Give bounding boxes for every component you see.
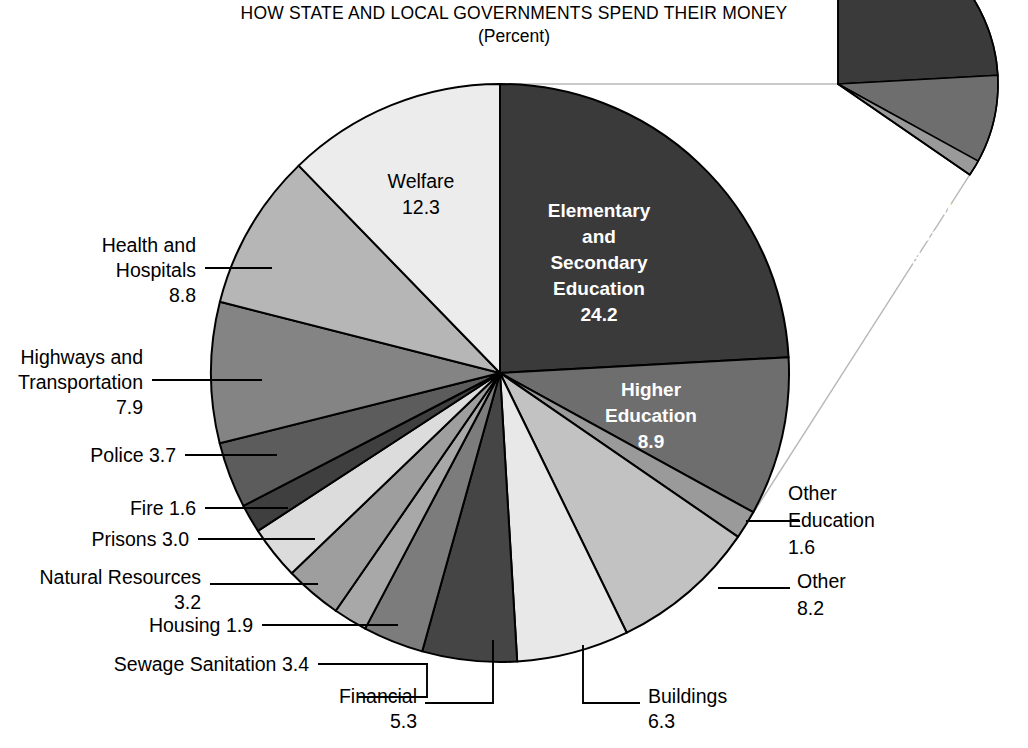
pie-chart-svg: HOW STATE AND LOCAL GOVERNMENTS SPEND TH… [0, 0, 1028, 748]
label-other-line1: Other [797, 570, 846, 592]
label-highways-line2: Transportation [18, 371, 143, 393]
label-housing: Housing 1.9 [149, 614, 253, 636]
leader-buildings [583, 645, 640, 703]
exploded-total-education[interactable] [838, 0, 998, 175]
label-total-education-line2: Education [884, 224, 976, 245]
label-welfare-value: 12.3 [402, 196, 440, 218]
label-other-education-line2: Education [788, 509, 875, 531]
label-buildings-line1: Buildings [648, 685, 727, 707]
label-financial-value: 5.3 [390, 710, 417, 732]
label-prisons: Prisons 3.0 [91, 528, 189, 550]
label-total-education-line1: Total [908, 198, 952, 219]
label-highways-value: 7.9 [116, 396, 143, 418]
label-fire: Fire 1.6 [130, 497, 196, 519]
label-other-value: 8.2 [797, 597, 824, 619]
chart-subtitle: (Percent) [478, 26, 550, 46]
label-health-hospitals-line2: Hospitals [116, 259, 196, 281]
label-natural-resources-value: 3.2 [174, 591, 201, 613]
label-highways-line1: Highways and [21, 346, 143, 368]
pie-slices [211, 84, 789, 662]
pie-chart-figure: HOW STATE AND LOCAL GOVERNMENTS SPEND TH… [0, 0, 1028, 748]
label-higher-education-line1: Higher [621, 379, 682, 400]
label-other-education-line1: Other [788, 482, 837, 504]
label-other-education-value: 1.6 [788, 536, 815, 558]
label-health-hospitals-line1: Health and [102, 234, 196, 256]
label-higher-education-line2: Education [605, 405, 697, 426]
label-elementary-secondary-line4: Education [553, 278, 645, 299]
slice-elementary-secondary-education[interactable] [500, 84, 789, 373]
label-financial-line1: Financial [339, 685, 417, 707]
label-health-hospitals-value: 8.8 [169, 284, 196, 306]
label-police: Police 3.7 [90, 444, 176, 466]
label-welfare-line1: Welfare [388, 170, 455, 192]
label-natural-resources-line1: Natural Resources [40, 566, 202, 588]
label-elementary-secondary-line1: Elementary [548, 200, 651, 221]
chart-title: HOW STATE AND LOCAL GOVERNMENTS SPEND TH… [241, 3, 788, 23]
label-higher-education-value: 8.9 [638, 431, 664, 452]
label-elementary-secondary-value: 24.2 [581, 304, 618, 325]
label-elementary-secondary-line2: and [582, 226, 616, 247]
label-sewage-sanitation: Sewage Sanitation 3.4 [114, 653, 309, 675]
label-total-education-value: 34.7 [912, 248, 949, 269]
label-elementary-secondary-line3: Secondary [550, 252, 648, 273]
label-buildings-value: 6.3 [648, 710, 675, 732]
exploded-slice-elementary-secondary[interactable] [838, 0, 998, 84]
exploded-slice-higher-education[interactable] [838, 75, 998, 161]
